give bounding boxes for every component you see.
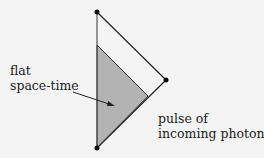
flat-spacetime-label: flat space-time [10,63,79,93]
label-line: incoming photons [158,126,264,141]
penrose-diagram: flat space-time pulse of incoming photon… [0,0,264,158]
flat-spacetime-region [97,45,148,148]
bottom-point [95,146,100,151]
label-line: space-time [10,78,79,93]
top-point [95,10,100,15]
label-line: flat [10,63,79,78]
right-point [164,78,169,83]
label-line: pulse of [158,111,264,126]
photon-pulse-label: pulse of incoming photons [158,111,264,141]
